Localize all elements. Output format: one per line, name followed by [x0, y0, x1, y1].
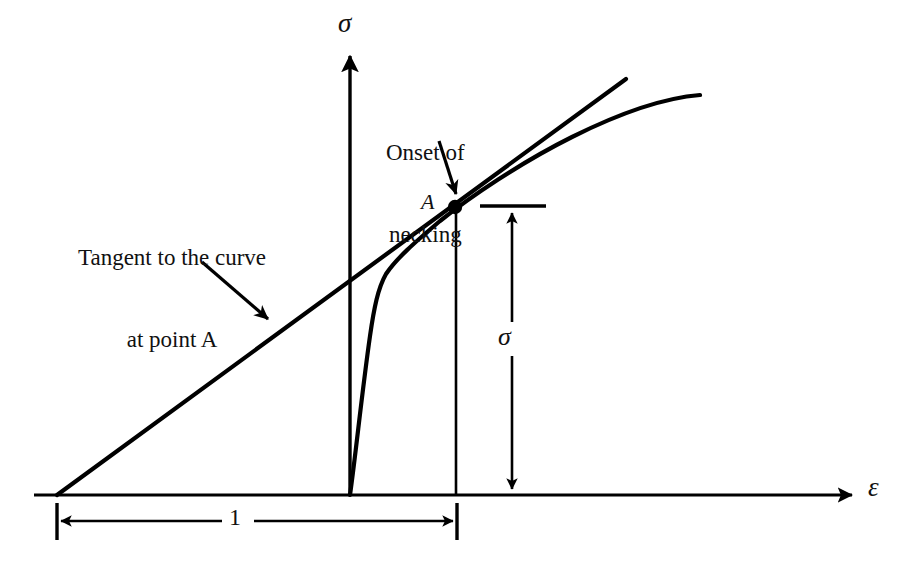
unit-strain-dimension-label: 1 [222, 503, 248, 531]
point-a-label: A [421, 189, 434, 215]
tangent-annotation-line-1: Tangent to the curve [78, 244, 266, 271]
onset-of-necking-line-2: necking [386, 221, 465, 248]
x-axis-label: ε [868, 472, 879, 504]
y-axis-label: σ [338, 8, 351, 40]
figure-root: σ ε Onset of necking Tangent to the curv… [0, 0, 919, 563]
tangent-annotation: Tangent to the curve at point A [78, 190, 266, 407]
tangent-annotation-line-2: at point A [78, 326, 266, 353]
unit-strain-dimension-line [57, 503, 457, 540]
onset-of-necking-line-1: Onset of [386, 139, 465, 166]
stress-dimension-label: σ [495, 322, 514, 353]
